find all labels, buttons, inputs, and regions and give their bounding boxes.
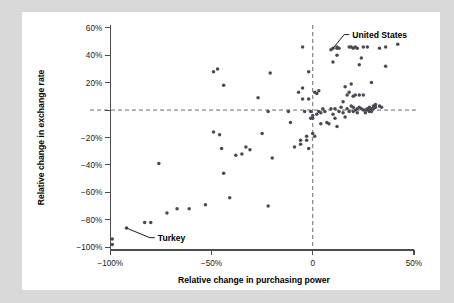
x-axis-title: Relative change in purchasing power xyxy=(178,275,331,285)
data-point xyxy=(358,93,362,97)
data-point xyxy=(220,147,224,151)
data-point xyxy=(370,81,374,85)
data-point xyxy=(307,70,311,74)
data-point xyxy=(143,221,147,225)
x-tick-label: 0 xyxy=(310,259,315,268)
data-point xyxy=(327,122,331,126)
data-point xyxy=(323,110,327,114)
data-point xyxy=(358,63,362,67)
data-point xyxy=(362,93,366,97)
x-tick-label: 50% xyxy=(406,259,422,268)
data-point xyxy=(396,42,400,46)
data-point xyxy=(360,56,364,60)
data-point xyxy=(216,67,220,71)
chart-canvas: −100%−80%−60%−40%−20%20%40%60%−100%−50%0… xyxy=(22,12,440,290)
annotation-label: United States xyxy=(352,30,407,40)
scatter-plot: −100%−80%−60%−40%−20%20%40%60%−100%−50%0… xyxy=(22,12,440,290)
axis-tick-labels: −100%−80%−60%−40%−20%20%40%60%−100%−50%0… xyxy=(77,24,423,268)
y-axis-title: Relative change in exchange rate xyxy=(36,69,46,205)
data-point xyxy=(362,45,366,49)
data-point xyxy=(111,237,115,241)
data-point xyxy=(311,117,315,121)
y-tick-label: −80% xyxy=(81,216,102,225)
data-point xyxy=(384,45,388,49)
data-point xyxy=(248,148,252,152)
data-point xyxy=(270,156,274,160)
axis-ticks xyxy=(105,28,414,255)
data-point xyxy=(244,145,248,149)
data-point xyxy=(228,196,232,200)
data-point xyxy=(301,97,305,101)
data-point xyxy=(343,115,347,119)
data-point xyxy=(222,84,226,88)
annotations: United StatesTurkey xyxy=(126,30,407,243)
data-point xyxy=(343,85,347,89)
y-tick-label: −40% xyxy=(81,161,102,170)
y-tick-label: 40% xyxy=(86,51,102,60)
data-point xyxy=(212,70,216,74)
data-point xyxy=(307,147,311,151)
x-tick-label: −50% xyxy=(201,259,222,268)
data-point xyxy=(165,211,169,215)
data-point xyxy=(313,134,317,138)
data-point xyxy=(331,112,335,116)
y-tick-label: −60% xyxy=(81,188,102,197)
data-point xyxy=(266,110,270,114)
x-tick-label: −100% xyxy=(97,259,123,268)
data-point xyxy=(337,47,341,51)
data-point xyxy=(305,134,309,138)
data-point xyxy=(337,110,341,114)
data-point xyxy=(384,64,388,68)
data-point xyxy=(319,122,323,126)
data-point xyxy=(268,71,272,75)
data-point xyxy=(289,121,293,125)
data-point xyxy=(309,110,313,114)
data-point xyxy=(212,130,216,134)
data-point xyxy=(331,60,335,64)
data-point xyxy=(335,53,339,57)
data-point xyxy=(240,152,244,156)
data-point xyxy=(378,47,382,51)
data-point xyxy=(333,117,337,121)
data-point xyxy=(266,204,270,208)
data-points xyxy=(111,42,400,246)
figure-card: −100%−80%−60%−40%−20%20%40%60%−100%−50%0… xyxy=(22,12,440,290)
data-point xyxy=(347,110,351,114)
data-point xyxy=(374,106,378,110)
data-point xyxy=(341,100,345,104)
data-point xyxy=(341,111,345,115)
data-point xyxy=(307,97,311,101)
data-point xyxy=(287,110,291,114)
y-tick-label: 60% xyxy=(86,24,102,33)
data-point xyxy=(329,107,333,111)
data-point xyxy=(260,132,264,136)
annotation-leader-line xyxy=(126,228,154,238)
data-point xyxy=(157,162,161,166)
data-point xyxy=(349,82,353,86)
data-point xyxy=(366,45,370,49)
data-point xyxy=(299,143,303,147)
y-tick-label: −100% xyxy=(77,243,103,252)
data-point xyxy=(299,138,303,142)
data-point xyxy=(111,243,115,247)
data-point xyxy=(218,133,222,137)
data-point xyxy=(356,47,360,51)
data-point xyxy=(333,107,337,111)
data-point xyxy=(175,207,179,211)
reference-lines xyxy=(90,25,418,250)
data-point xyxy=(149,221,153,225)
data-point xyxy=(222,171,226,175)
data-point xyxy=(347,90,351,94)
data-point xyxy=(256,96,260,100)
data-point xyxy=(293,145,297,149)
data-point xyxy=(317,89,321,93)
data-point xyxy=(187,207,191,211)
data-point xyxy=(297,90,301,94)
data-point xyxy=(356,111,360,115)
data-point xyxy=(380,106,384,110)
data-point xyxy=(335,125,339,128)
data-point xyxy=(319,111,323,115)
data-point xyxy=(234,154,238,158)
data-point xyxy=(204,203,208,207)
y-tick-label: −20% xyxy=(81,134,102,143)
